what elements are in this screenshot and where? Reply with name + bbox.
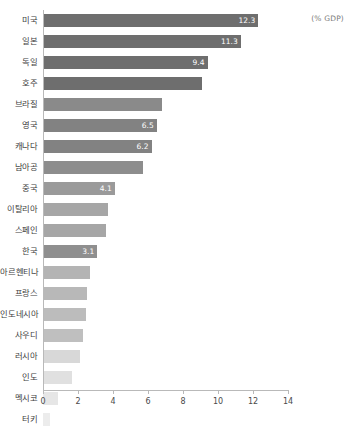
- bar-track: 11.3: [43, 31, 350, 52]
- bar-row: 터키: [0, 409, 350, 430]
- category-label: 프랑스: [0, 283, 38, 304]
- bar-value-label: 9.4: [43, 56, 208, 69]
- bar-row: 일본11.3: [0, 31, 350, 52]
- bar-row: 프랑스: [0, 283, 350, 304]
- bar-row: 사우디: [0, 325, 350, 346]
- bar-track: 6.2: [43, 136, 350, 157]
- bar: [43, 266, 90, 279]
- bar-row: 스페인: [0, 220, 350, 241]
- x-tick-mark: [148, 390, 149, 394]
- bar: [43, 224, 106, 237]
- bar-track: 12.3: [43, 10, 350, 31]
- bar-row: 인도: [0, 367, 350, 388]
- bar-track: [43, 262, 350, 283]
- bar-row: 멕시코: [0, 388, 350, 409]
- bar-row: 인도네시아: [0, 304, 350, 325]
- bar-track: [43, 199, 350, 220]
- x-tick-mark: [253, 390, 254, 394]
- bar-track: [43, 94, 350, 115]
- category-label: 터키: [0, 409, 38, 430]
- category-label: 사우디: [0, 325, 38, 346]
- category-label: 중국: [0, 178, 38, 199]
- bar: [43, 161, 143, 174]
- bar-value-label: 4.1: [43, 182, 115, 195]
- bar-value-label: 6.2: [43, 140, 152, 153]
- x-tick-label: 8: [180, 397, 185, 406]
- category-label: 캐나다: [0, 136, 38, 157]
- category-label: 미국: [0, 10, 38, 31]
- bar-row: 호주: [0, 73, 350, 94]
- category-label: 독일: [0, 52, 38, 73]
- bar: [43, 308, 86, 321]
- bar-value-label: 11.3: [43, 35, 241, 48]
- bar-track: 4.1: [43, 178, 350, 199]
- x-axis-line: [43, 390, 288, 391]
- category-label: 이탈리아: [0, 199, 38, 220]
- category-label: 한국: [0, 241, 38, 262]
- x-tick-mark: [218, 390, 219, 394]
- bar-row: 독일9.4: [0, 52, 350, 73]
- bar-row: 남아공: [0, 157, 350, 178]
- bar-row: 영국6.5: [0, 115, 350, 136]
- bar-row: 브라질: [0, 94, 350, 115]
- bar-track: 9.4: [43, 52, 350, 73]
- bar-row: 미국12.3: [0, 10, 350, 31]
- x-tick-label: 0: [40, 397, 45, 406]
- bar-chart: (% GDP) 미국12.3일본11.3독일9.4호주브라질영국6.5캐나다6.…: [0, 0, 350, 434]
- x-tick-mark: [43, 390, 44, 394]
- bar: [43, 371, 72, 384]
- bar-track: [43, 73, 350, 94]
- bar: [43, 287, 87, 300]
- category-label: 스페인: [0, 220, 38, 241]
- x-tick-label: 2: [75, 397, 80, 406]
- x-tick-mark: [183, 390, 184, 394]
- bar-row: 한국3.1: [0, 241, 350, 262]
- category-label: 아르헨티나: [0, 262, 38, 283]
- y-axis-line: [43, 10, 44, 390]
- bar: [43, 203, 108, 216]
- category-label: 인도네시아: [0, 304, 38, 325]
- bar-track: [43, 367, 350, 388]
- bar: [43, 413, 50, 426]
- x-tick-label: 14: [283, 397, 293, 406]
- category-label: 영국: [0, 115, 38, 136]
- bar-track: [43, 325, 350, 346]
- bar-row: 이탈리아: [0, 199, 350, 220]
- bar-track: [43, 157, 350, 178]
- category-label: 멕시코: [0, 388, 38, 409]
- bar-row: 아르헨티나: [0, 262, 350, 283]
- bar-value-label: 6.5: [43, 119, 157, 132]
- bar-row: 중국4.1: [0, 178, 350, 199]
- bar: [43, 98, 162, 111]
- bar-track: 3.1: [43, 241, 350, 262]
- bar-track: [43, 409, 350, 430]
- bar-row: 러시아: [0, 346, 350, 367]
- category-label: 일본: [0, 31, 38, 52]
- x-tick-label: 12: [248, 397, 258, 406]
- bar-track: [43, 220, 350, 241]
- x-tick-mark: [113, 390, 114, 394]
- category-label: 호주: [0, 73, 38, 94]
- bar-track: [43, 346, 350, 367]
- category-label: 러시아: [0, 346, 38, 367]
- x-tick-label: 6: [145, 397, 150, 406]
- bar-value-label: 12.3: [43, 14, 258, 27]
- category-label: 인도: [0, 367, 38, 388]
- bar-row: 캐나다6.2: [0, 136, 350, 157]
- bar: [43, 329, 83, 342]
- bar-track: [43, 304, 350, 325]
- x-tick-label: 10: [213, 397, 223, 406]
- bar: [43, 77, 202, 90]
- bar-track: [43, 388, 350, 409]
- plot-area: 미국12.3일본11.3독일9.4호주브라질영국6.5캐나다6.2남아공중국4.…: [0, 10, 350, 390]
- x-tick-label: 4: [110, 397, 115, 406]
- bar: [43, 350, 80, 363]
- category-label: 남아공: [0, 157, 38, 178]
- category-label: 브라질: [0, 94, 38, 115]
- x-tick-mark: [288, 390, 289, 394]
- bar-track: [43, 283, 350, 304]
- bar-track: 6.5: [43, 115, 350, 136]
- x-tick-mark: [78, 390, 79, 394]
- bar-value-label: 3.1: [43, 245, 97, 258]
